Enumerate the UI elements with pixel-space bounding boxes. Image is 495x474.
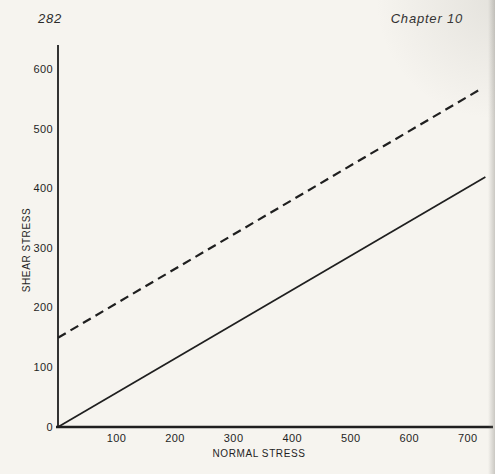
stress-chart: 0100200300400500600100200300400500600700… [0,0,495,474]
x-tick-label: 100 [107,432,127,444]
y-axis-title: SHEAR STRESS [21,208,32,292]
y-tick-label: 100 [33,361,53,373]
x-tick-label: 400 [282,432,302,444]
y-tick-label: 400 [33,182,53,194]
x-tick-label: 700 [458,432,478,444]
x-tick-label: 600 [399,432,419,444]
x-axis-title: NORMAL STRESS [212,448,305,459]
y-tick-label: 500 [33,123,53,135]
x-tick-label: 300 [224,432,244,444]
x-tick-label: 500 [341,432,361,444]
y-tick-label: 0 [46,421,53,433]
series-line-solid-envelope [58,177,485,427]
x-tick-label: 200 [165,432,185,444]
y-tick-label: 200 [33,301,53,313]
y-tick-label: 300 [33,242,53,254]
book-page: 282 Chapter 10 0100200300400500600100200… [0,0,495,474]
series-line-dashed-envelope [58,89,481,338]
y-tick-label: 600 [33,63,53,75]
